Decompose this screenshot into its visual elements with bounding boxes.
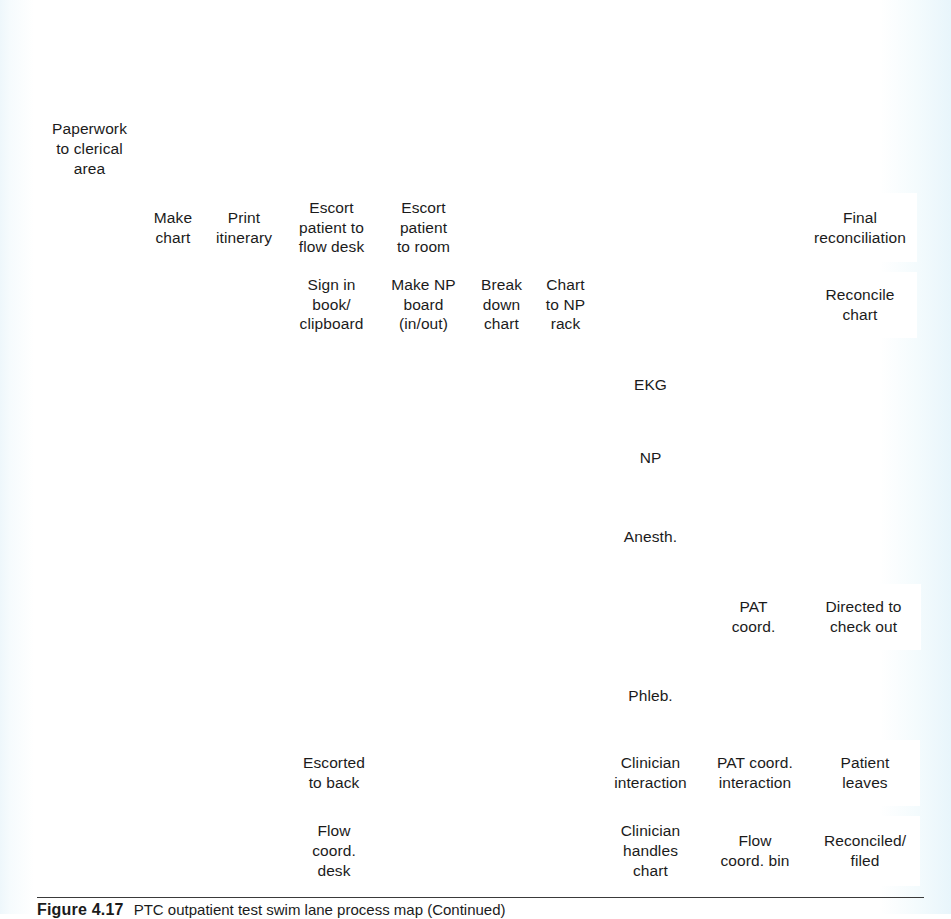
process-box-phleb: Phleb. (602, 663, 699, 729)
process-box-make-np-board-in-out: Make NP board (in/out) (381, 270, 466, 339)
process-box-paperwork-to-clerical-area: Paperwork to clerical area (38, 114, 141, 184)
process-box-clinician-handles-chart: Clinician handles chart (602, 816, 699, 886)
process-box-directed-to-check-out: Directed to check out (806, 584, 921, 650)
caption-divider (37, 897, 924, 898)
process-box-pat-coord-interaction: PAT coord. interaction (706, 740, 804, 806)
process-box-final-reconciliation: Final reconciliation (803, 193, 917, 262)
process-box-flow-coord-desk: Flow coord. desk (287, 816, 381, 886)
process-box-np: NP (602, 425, 699, 491)
process-box-sign-in-book-clipboard: Sign in book/ clipboard (285, 270, 378, 339)
process-box-chart-to-np-rack: Chart to NP rack (535, 270, 596, 339)
process-box-escorted-to-back: Escorted to back (287, 740, 381, 806)
process-box-escort-patient-to-room: Escort patient to room (381, 193, 466, 262)
figure-caption: Figure 4.17PTC outpatient test swim lane… (37, 901, 937, 919)
process-box-clinician-interaction: Clinician interaction (602, 740, 699, 806)
process-box-ekg: EKG (602, 352, 699, 418)
process-box-reconcile-chart: Reconcile chart (803, 272, 917, 338)
process-box-pat-coord: PAT coord. (706, 584, 801, 650)
process-box-patient-leaves: Patient leaves (810, 740, 920, 806)
process-box-anesth: Anesth. (602, 504, 699, 570)
process-box-escort-patient-to-flow-desk: Escort patient to flow desk (285, 193, 378, 262)
figure-label: Figure 4.17 (37, 901, 124, 918)
process-box-print-itinerary: Print itinerary (206, 193, 282, 262)
process-box-flow-coord-bin: Flow coord. bin (706, 816, 804, 886)
process-box-make-chart: Make chart (142, 193, 204, 262)
figure-caption-text: PTC outpatient test swim lane process ma… (134, 901, 506, 918)
process-box-reconciled-filed: Reconciled/ filed (810, 816, 920, 886)
process-box-break-down-chart: Break down chart (471, 270, 532, 339)
